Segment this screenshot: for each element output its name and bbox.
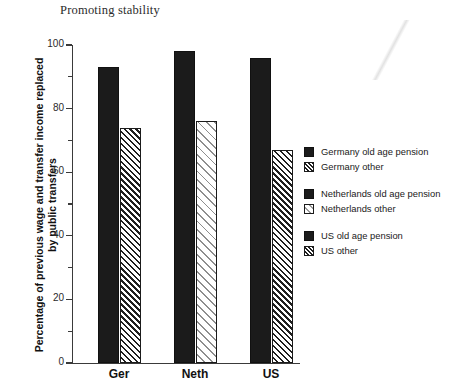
legend-item: US other <box>304 244 460 257</box>
bar <box>174 51 195 363</box>
chart-legend: Germany old age pensionGermany otherNeth… <box>304 145 460 271</box>
bar <box>98 67 119 363</box>
legend-swatch-icon <box>304 189 314 199</box>
chart-title: Promoting stability <box>60 3 160 18</box>
legend-item: Germany other <box>304 160 460 173</box>
legend-item: Netherlands old age pension <box>304 187 460 200</box>
y-axis-tick-label: 20 <box>24 292 64 303</box>
y-axis-tick-label: 60 <box>24 165 64 176</box>
y-axis-tick-label: 80 <box>24 102 64 113</box>
legend-group: Germany old age pensionGermany other <box>304 145 460 173</box>
bar <box>272 150 293 363</box>
plot-area <box>72 45 300 363</box>
y-axis-tick-label: 100 <box>24 38 64 49</box>
bar <box>196 121 217 363</box>
legend-item: US old age pension <box>304 229 460 242</box>
x-axis-line <box>72 363 300 364</box>
legend-swatch-icon <box>304 231 314 241</box>
legend-item-label: Netherlands other <box>321 203 396 214</box>
x-axis-tick-label: Neth <box>165 367 225 381</box>
x-axis-tick-label: Ger <box>89 367 149 381</box>
legend-group: Netherlands old age pensionNetherlands o… <box>304 187 460 215</box>
legend-item: Germany old age pension <box>304 145 460 158</box>
bar <box>120 128 141 363</box>
legend-swatch-icon <box>304 246 314 256</box>
legend-item: Netherlands other <box>304 202 460 215</box>
legend-item-label: US old age pension <box>321 230 403 241</box>
legend-item-label: US other <box>321 245 358 256</box>
legend-swatch-icon <box>304 204 314 214</box>
y-axis-tick-label: 0 <box>24 356 64 367</box>
legend-swatch-icon <box>304 162 314 172</box>
legend-item-label: Germany old age pension <box>321 146 428 157</box>
y-axis-tick-label: 40 <box>24 229 64 240</box>
bar <box>250 58 271 363</box>
legend-group: US old age pensionUS other <box>304 229 460 257</box>
x-axis-tick-label: US <box>241 367 301 381</box>
y-axis-tick-labels: 020406080100 <box>20 0 64 385</box>
legend-item-label: Netherlands old age pension <box>321 188 440 199</box>
scan-artifact <box>352 20 432 80</box>
legend-swatch-icon <box>304 147 314 157</box>
chart-figure: Promoting stability Percentage of previo… <box>0 0 463 385</box>
legend-item-label: Germany other <box>321 161 384 172</box>
